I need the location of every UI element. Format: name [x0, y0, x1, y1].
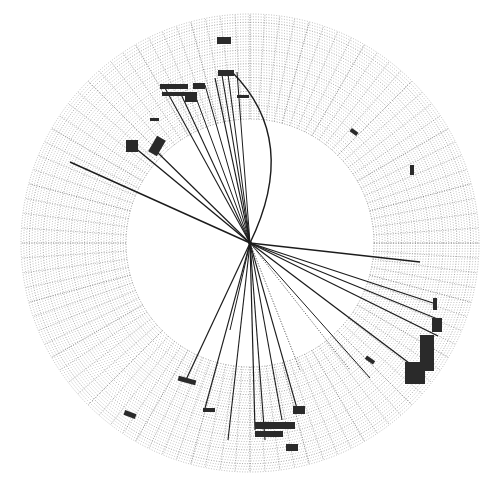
hit-block	[150, 118, 159, 121]
grid-spoke	[123, 346, 181, 433]
grid-spoke	[205, 18, 225, 121]
hit-block	[432, 318, 442, 332]
hit-block	[162, 92, 186, 96]
hit-block	[237, 95, 249, 98]
particle-track	[250, 243, 420, 262]
grid-spoke	[38, 290, 135, 330]
hit-block	[410, 165, 414, 175]
hit-block	[405, 362, 425, 384]
hit-block	[217, 37, 231, 44]
grid-spoke	[305, 38, 351, 132]
grid-spoke	[123, 53, 181, 140]
hit-block	[255, 422, 295, 429]
grid-spoke	[353, 116, 440, 174]
event-display-diagram	[0, 0, 499, 494]
hit-block	[148, 136, 166, 157]
particle-track	[250, 243, 438, 336]
grid-spoke	[374, 228, 479, 235]
grid-spoke	[52, 305, 143, 358]
particle-track	[70, 162, 250, 243]
particle-track	[250, 243, 433, 303]
interaction-vertex	[248, 241, 252, 245]
particle-track	[155, 150, 250, 243]
grid-spoke	[29, 275, 130, 302]
particle-track	[180, 92, 250, 243]
grid-spoke	[319, 53, 377, 140]
grid-spoke	[149, 354, 195, 448]
hit-block	[255, 431, 283, 437]
grid-spoke	[25, 267, 128, 287]
hit-block	[193, 83, 205, 89]
grid-spoke	[68, 318, 151, 382]
hit-block	[293, 406, 305, 414]
hit-block	[126, 140, 138, 152]
particle-track	[230, 243, 250, 330]
detector-svg	[0, 0, 499, 494]
grid-spoke	[266, 16, 280, 120]
particle-track	[250, 243, 440, 320]
grid-spoke	[205, 365, 225, 468]
hit-block	[203, 408, 215, 412]
hit-block	[350, 128, 359, 136]
hit-block	[433, 298, 437, 310]
hit-block	[286, 444, 298, 451]
particle-track	[250, 243, 298, 412]
grid-spoke	[21, 251, 126, 258]
grid-spoke	[21, 228, 126, 235]
grid-spoke	[357, 129, 448, 182]
grid-spoke	[297, 31, 337, 128]
hit-block	[185, 92, 197, 102]
grid-spoke	[370, 184, 471, 211]
grid-spoke	[52, 129, 143, 182]
hit-block	[218, 70, 234, 76]
hit-block	[160, 84, 188, 89]
